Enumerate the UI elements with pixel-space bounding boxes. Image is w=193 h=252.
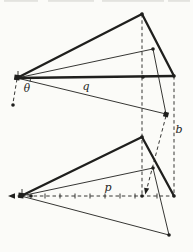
top-base <box>17 76 174 78</box>
q-label: q <box>82 81 89 92</box>
axis-unit-dot <box>29 194 33 198</box>
diagram-page: θ q b p <box>0 0 193 252</box>
bottom-median <box>21 168 153 196</box>
axis-apex-foot-dot <box>140 194 144 198</box>
q-end-marker <box>163 111 169 117</box>
top-right-dot <box>172 74 176 78</box>
scan-artifact <box>4 0 38 2</box>
p-label: p <box>104 182 111 193</box>
left-vertex-tail <box>13 79 17 103</box>
axis-left-arrowhead <box>8 193 15 199</box>
scan-artifact <box>48 0 94 2</box>
bottom-mid-dot <box>151 166 155 170</box>
top-apex-dot <box>140 12 144 16</box>
bottom-left-side <box>21 137 142 196</box>
bottom-left-vertex-marker <box>18 192 24 198</box>
geometry-diagram <box>0 0 193 252</box>
b-label: b <box>175 124 182 135</box>
top-median <box>17 49 153 78</box>
tail-end-dot <box>11 103 15 107</box>
bottom-right-dot <box>172 194 176 198</box>
bottom-apex-dot <box>140 135 144 139</box>
q-line <box>17 78 166 114</box>
top-base-dot <box>141 75 145 79</box>
theta-label: θ <box>24 83 30 94</box>
p-outer-line <box>21 196 169 235</box>
top-left-side <box>17 14 142 78</box>
top-mid-dot <box>151 47 155 51</box>
scan-artifact <box>168 0 190 2</box>
top-left-vertex-marker <box>14 74 20 80</box>
bottom-drop <box>153 168 169 235</box>
b-transfer-arrowhead <box>144 188 149 195</box>
top-right-side <box>142 14 174 76</box>
bottom-outer-dot <box>167 233 171 237</box>
scan-artifact <box>102 0 164 2</box>
